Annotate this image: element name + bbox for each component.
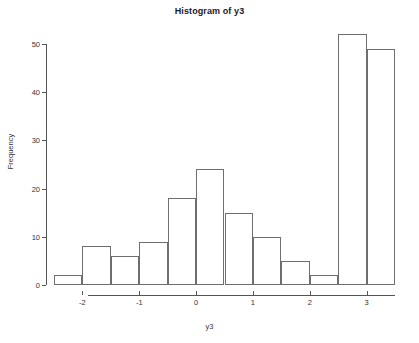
y-axis-tick [42, 92, 46, 93]
histogram-bar [338, 34, 366, 285]
x-axis-tick [196, 291, 197, 295]
x-axis-tick [139, 291, 140, 295]
histogram-bar [139, 242, 167, 285]
histogram-bar [168, 198, 196, 285]
x-axis-tick-label: -2 [70, 298, 94, 307]
y-axis-line [46, 44, 47, 285]
y-axis-tick-label: 50 [18, 40, 40, 49]
histogram-bar [225, 213, 253, 285]
y-axis-tick-label: 20 [18, 184, 40, 193]
histogram-bar [82, 246, 110, 285]
plot-area: 01020304050 -2-10123 Frequency y3 [0, 0, 419, 343]
y-axis-tick-label: 0 [18, 281, 40, 290]
y-axis-tick-labels: 01020304050 [10, 0, 40, 343]
y-axis-tick [42, 285, 46, 286]
histogram-bar [111, 256, 139, 285]
histogram-bar [310, 275, 338, 285]
bars-layer [0, 0, 419, 343]
x-axis-title: y3 [0, 322, 419, 331]
x-axis-tick [82, 291, 83, 295]
x-axis-tick-label: 1 [241, 298, 265, 307]
histogram-bar [281, 261, 309, 285]
x-axis-line [88, 295, 395, 296]
x-axis-tick-label: 3 [355, 298, 379, 307]
histogram-bar [54, 275, 82, 285]
histogram-bar [253, 237, 281, 285]
x-axis-tick [310, 291, 311, 295]
y-axis-title: Frequency [6, 116, 15, 188]
y-axis-tick [42, 140, 46, 141]
x-axis-tick [253, 291, 254, 295]
histogram-plot: Histogram of y3 01020304050 -2-10123 Fre… [0, 0, 419, 343]
x-axis-tick [367, 291, 368, 295]
y-axis-tick-label: 30 [18, 136, 40, 145]
x-axis-tick-label: -1 [127, 298, 151, 307]
y-axis-tick-label: 10 [18, 232, 40, 241]
x-axis-tick-label: 2 [298, 298, 322, 307]
histogram-bar [196, 169, 224, 285]
y-axis-tick-label: 40 [18, 88, 40, 97]
x-axis-tick-label: 0 [184, 298, 208, 307]
y-axis-tick [42, 189, 46, 190]
y-axis-tick [42, 44, 46, 45]
histogram-bar [367, 49, 395, 285]
y-axis-tick [42, 237, 46, 238]
